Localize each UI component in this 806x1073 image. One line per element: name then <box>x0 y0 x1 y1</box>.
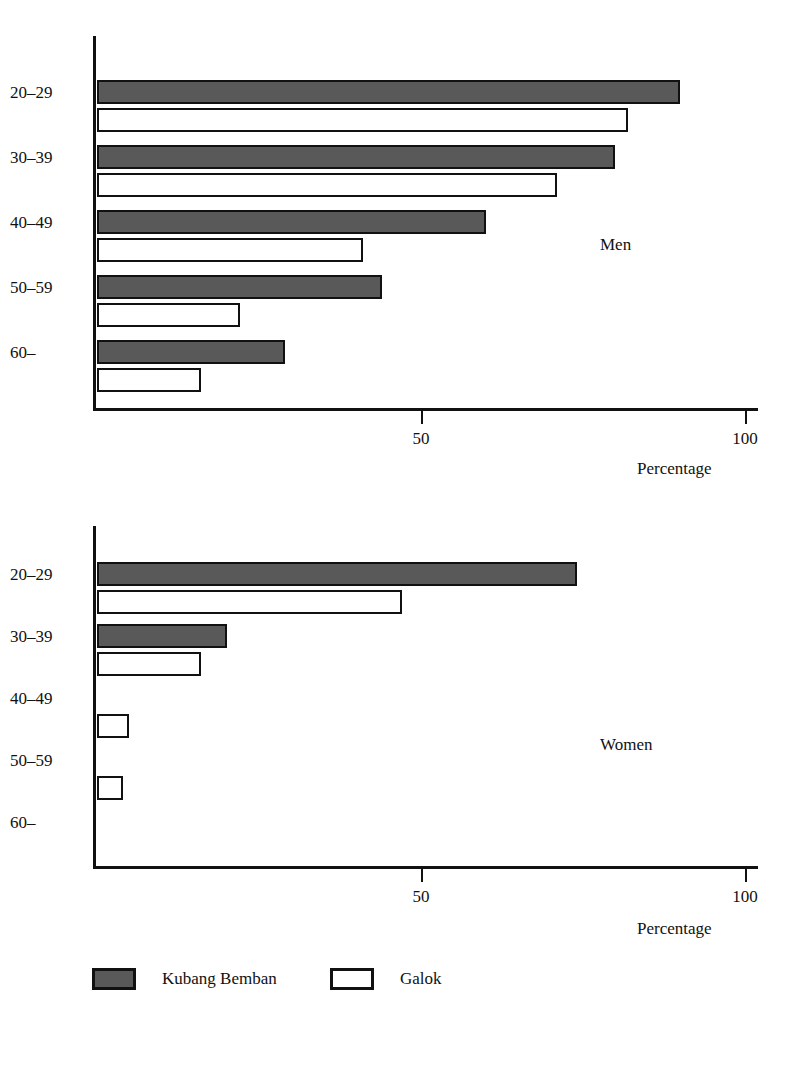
bar-women-kubang-bemban-1 <box>97 624 227 648</box>
bar-men-galok-0 <box>97 108 628 132</box>
chart-panel-men: 20–2930–3940–4950–5960– 50100 Percentage… <box>0 18 806 488</box>
category-label-text: 60– <box>10 814 88 831</box>
y-axis-line-women <box>93 526 96 866</box>
bar-men-kubang-bemban-1 <box>97 145 615 169</box>
bar-women-galok-3 <box>97 776 123 800</box>
bar-men-kubang-bemban-0 <box>97 80 680 104</box>
category-label-text: 20–29 <box>10 84 88 101</box>
chart-panel-women: 20–2930–3940–4950–5960– 50100 Percentage… <box>0 508 806 963</box>
x-tick-label-50-men: 50 <box>391 430 451 447</box>
x-axis-title-women: Percentage <box>637 920 712 938</box>
x-tick-50-women <box>421 869 423 882</box>
panel-label-women: Women <box>600 736 652 754</box>
category-label-text: 40–49 <box>10 214 88 231</box>
bar-women-galok-1 <box>97 652 201 676</box>
x-axis-title-men: Percentage <box>637 460 712 478</box>
bar-men-galok-3 <box>97 303 240 327</box>
category-label-text: 60– <box>10 344 88 361</box>
legend-label-galok: Galok <box>400 970 442 988</box>
x-tick-100-men <box>745 411 747 424</box>
x-tick-label-100-women: 100 <box>715 888 775 905</box>
legend-label-kubang-bemban: Kubang Bemban <box>162 970 277 988</box>
bar-men-galok-2 <box>97 238 363 262</box>
x-tick-label-100-men: 100 <box>715 430 775 447</box>
bar-men-galok-1 <box>97 173 557 197</box>
x-tick-50-men <box>421 411 423 424</box>
x-tick-label-50-women: 50 <box>391 888 451 905</box>
chart-legend: Kubang Bemban Galok <box>0 968 806 1008</box>
y-axis-line-men <box>93 36 96 408</box>
x-tick-100-women <box>745 869 747 882</box>
bar-men-kubang-bemban-3 <box>97 275 382 299</box>
category-label-text: 30–39 <box>10 628 88 645</box>
bar-men-kubang-bemban-2 <box>97 210 486 234</box>
figure-caption <box>0 1062 806 1073</box>
figure: 20–2930–3940–4950–5960– 50100 Percentage… <box>0 0 806 1073</box>
legend-item-galok: Galok <box>330 968 442 990</box>
bar-women-galok-2 <box>97 714 129 738</box>
bar-men-galok-4 <box>97 368 201 392</box>
x-axis-line-men <box>93 408 758 411</box>
category-label-text: 20–29 <box>10 566 88 583</box>
category-label-text: 50–59 <box>10 279 88 296</box>
bar-men-kubang-bemban-4 <box>97 340 285 364</box>
panel-label-men: Men <box>600 236 631 254</box>
x-axis-line-women <box>93 866 758 869</box>
legend-item-kubang-bemban: Kubang Bemban <box>92 968 277 990</box>
legend-swatch-filled-icon <box>92 968 136 990</box>
category-label-text: 50–59 <box>10 752 88 769</box>
category-label-text: 30–39 <box>10 149 88 166</box>
legend-swatch-open-icon <box>330 968 374 990</box>
bar-women-galok-0 <box>97 590 402 614</box>
bar-women-kubang-bemban-0 <box>97 562 577 586</box>
category-label-text: 40–49 <box>10 690 88 707</box>
